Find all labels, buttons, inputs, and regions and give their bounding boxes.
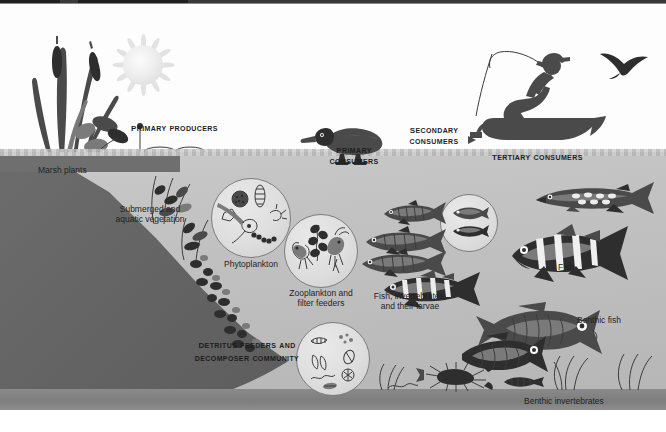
caption-line: filter feeders xyxy=(298,298,345,308)
ecosystem-panel: Primary producers Primary consumers Seco… xyxy=(0,6,666,410)
top-rule-shadow xyxy=(0,3,666,4)
heading-secondary-consumers: Secondary consumers xyxy=(390,124,478,146)
caption-zooplankton: Zooplankton and filter feeders xyxy=(279,288,363,308)
crayfish-icon xyxy=(414,358,494,392)
heading-line: consumers xyxy=(409,135,458,146)
heading-line: Detritus feeders and xyxy=(198,339,295,350)
heading-primary-producers: Primary producers xyxy=(131,122,218,133)
perch-fish-icon xyxy=(504,222,636,284)
caption-line: and their larvae xyxy=(381,301,440,311)
heading-line: decomposer community xyxy=(195,352,299,363)
heading-detritus-decomposers: Detritus feeders and decomposer communit… xyxy=(172,338,322,364)
heading-line: consumers xyxy=(329,155,378,166)
caption-marsh-plants: Marsh plants xyxy=(38,165,87,175)
caption-phytoplankton: Phytoplankton xyxy=(214,259,288,269)
caption-fish: Fish xyxy=(558,262,574,272)
fisherman-in-boat-silhouette-icon xyxy=(466,32,626,158)
caption-line: Zooplankton and xyxy=(289,288,352,298)
bottom-vegetation-icon xyxy=(610,352,654,392)
caption-line: Submerged and xyxy=(120,204,181,214)
bottom-vegetation-icon xyxy=(374,362,408,392)
zooplankton-circle-inset xyxy=(284,214,358,288)
benthic-worm-icon xyxy=(500,372,548,390)
phytoplankton-circle-inset xyxy=(211,178,291,258)
heading-line: Primary xyxy=(336,144,372,155)
illustration-canvas: Primary producers Primary consumers Seco… xyxy=(0,0,666,432)
caption-benthic-fish: Benthic fish xyxy=(577,315,621,325)
top-rule-segment xyxy=(0,0,60,3)
caption-line: aquatic vegetation xyxy=(116,214,185,224)
bottom-vegetation-icon xyxy=(548,354,592,392)
heading-tertiary-consumers: Tertiary consumers xyxy=(492,151,583,162)
pike-predator-fish-icon xyxy=(532,178,660,218)
caption-submerged-vegetation: Submerged and aquatic vegetation xyxy=(104,204,196,224)
caption-benthic-invertebrates: Benthic invertebrates xyxy=(524,396,604,406)
heading-primary-consumers: Primary consumers xyxy=(317,144,391,166)
caption-fish-invertebrates: Fish, invertebrates, and their larvae xyxy=(358,291,462,311)
caption-line: Fish, invertebrates, xyxy=(374,291,446,301)
top-rule-segment xyxy=(78,0,188,3)
heading-line: Secondary xyxy=(410,124,459,135)
